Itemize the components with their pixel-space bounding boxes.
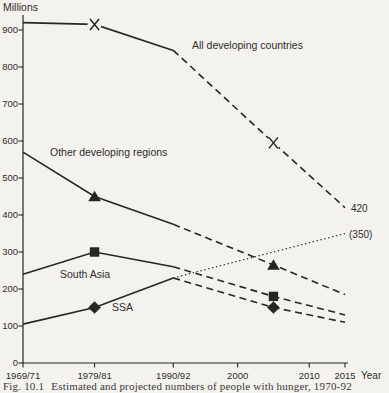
- marker-square-icon-south-asia-0: [90, 247, 99, 256]
- y-tick-label-0: 0: [13, 357, 18, 368]
- y-tick-label-300: 300: [2, 246, 18, 257]
- figure-caption-text: Estimated and projected numbers of peopl…: [51, 380, 352, 392]
- axes: [23, 15, 348, 363]
- end-value-label-all-developing-countries: 420: [351, 203, 368, 214]
- figure-caption: Fig. 10.1Estimated and projected numbers…: [3, 380, 389, 392]
- marker-square-icon-south-asia-1: [269, 292, 278, 301]
- series-line-dotted-ssa: [173, 234, 345, 278]
- marker-triangle-icon-other-developing-regions-0: [88, 191, 101, 202]
- y-tick-label-400: 400: [2, 209, 18, 220]
- marker-triangle-icon-other-developing-regions-1: [267, 259, 280, 270]
- series-line-dashed-other-developing-regions: [173, 224, 345, 294]
- series-line-dashed-south-asia: [173, 267, 345, 315]
- series-label-all-developing-countries: All developing countries: [192, 39, 303, 51]
- series-label-other-developing-regions: Other developing regions: [50, 146, 167, 158]
- series-line-solid-ssa: [23, 278, 173, 324]
- marker-diamond-icon-ssa-1: [267, 301, 280, 314]
- y-tick-label-200: 200: [2, 283, 18, 294]
- y-tick-label-500: 500: [2, 172, 18, 183]
- y-tick-label-900: 900: [2, 24, 18, 35]
- series-line-solid-other-developing-regions: [23, 152, 173, 224]
- marker-diamond-icon-ssa-0: [88, 301, 101, 314]
- y-tick-label-800: 800: [2, 61, 18, 72]
- y-axis-title: Millions: [3, 1, 38, 13]
- y-tick-label-600: 600: [2, 135, 18, 146]
- figure-caption-number: Fig. 10.1: [3, 380, 44, 392]
- dotted-end-value-label-ssa: (350): [349, 229, 372, 240]
- series-line-dashed-all-developing-countries: [173, 50, 345, 207]
- y-tick-label-100: 100: [2, 320, 18, 331]
- series-line-dashed-ssa: [173, 278, 345, 322]
- y-tick-label-700: 700: [2, 98, 18, 109]
- series-label-south-asia: South Asia: [60, 268, 110, 280]
- series-label-ssa: SSA: [112, 301, 133, 313]
